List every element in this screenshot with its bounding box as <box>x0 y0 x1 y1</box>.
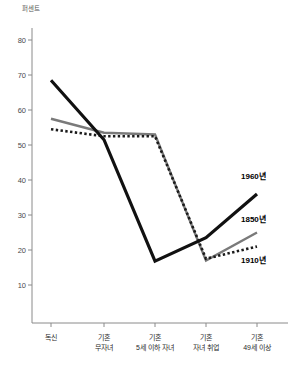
y-tick-50: 50 <box>8 141 26 150</box>
y-tick-40: 40 <box>8 176 26 185</box>
y-tick-60: 60 <box>8 106 26 115</box>
y-tick-30: 30 <box>8 211 26 220</box>
series-line-1960년 <box>51 80 257 261</box>
series-label-1910: 1910년 <box>241 254 266 265</box>
series-label-1960: 1960년 <box>241 170 266 181</box>
line-chart: 퍼센트 1020304050607080 독신기혼 무자녀기혼 5세 이하 자녀… <box>0 0 292 368</box>
x-tick-4: 기혼 49세 이상 <box>224 333 290 352</box>
series-line-1850년 <box>51 119 257 261</box>
y-tick-10: 10 <box>8 281 26 290</box>
y-tick-80: 80 <box>8 36 26 45</box>
series-line-1910년 <box>51 129 257 259</box>
y-tick-20: 20 <box>8 246 26 255</box>
y-tick-70: 70 <box>8 71 26 80</box>
series-label-1850: 1850년 <box>241 213 266 224</box>
chart-plot-area <box>0 0 292 368</box>
